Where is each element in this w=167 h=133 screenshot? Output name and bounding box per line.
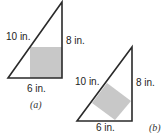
triangles-diagram: 10 in. 8 in. 6 in. (a) 10 in. 8 in. 6 in…: [0, 0, 167, 133]
caption-b: (b): [149, 122, 161, 133]
hypotenuse-label-b: 10 in.: [75, 76, 99, 87]
inscribed-square-a: [30, 47, 62, 78]
leg-label-a: 8 in.: [66, 35, 85, 46]
leg-label-b: 8 in.: [136, 77, 155, 88]
inscribed-square-b: [92, 83, 131, 120]
hypotenuse-label-a: 10 in.: [6, 31, 30, 42]
figure-a: 10 in. 8 in. 6 in. (a): [6, 2, 85, 111]
figure-b: 10 in. 8 in. 6 in. (b): [75, 47, 161, 133]
caption-a: (a): [30, 99, 42, 111]
base-label-a: 6 in.: [27, 83, 46, 94]
base-label-b: 6 in.: [96, 122, 115, 133]
